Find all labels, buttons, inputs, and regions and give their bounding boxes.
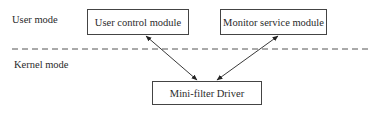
arrow-monitor-service-minifilter xyxy=(217,36,278,80)
minifilter-driver-box: Mini-filter Driver xyxy=(152,81,262,105)
user-control-module-label: User control module xyxy=(95,17,181,28)
arrow-user-control-minifilter xyxy=(146,36,197,80)
user-control-module-box: User control module xyxy=(87,9,189,35)
monitor-service-module-box: Monitor service module xyxy=(220,9,327,35)
monitor-service-module-label: Monitor service module xyxy=(223,17,324,28)
minifilter-driver-label: Mini-filter Driver xyxy=(170,88,244,99)
